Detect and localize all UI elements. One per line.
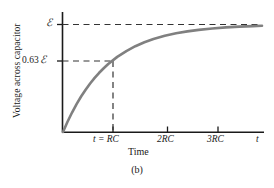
y-tick-label-emf: ℰ [46,18,52,29]
x-tick-label-2rc: 2RC [157,135,174,145]
y-tick-label-063-value: 0.63 [22,55,39,65]
y-tick-label-063-emf: 0.63ℰ [22,55,46,66]
charging-curve [63,26,262,132]
x-axis-title: Time [128,147,149,157]
panel-caption: (b) [0,165,274,175]
plot-area [0,0,274,188]
y-tick-label-063-emf-symbol: ℰ [39,54,47,65]
x-tick-label-rc: t = RC [93,135,119,145]
capacitor-charging-figure: Voltage across capacitor Time ℰ 0.63ℰ t … [0,0,274,188]
x-tick-label-t: t [256,135,259,145]
x-tick-label-3rc: 3RC [207,135,224,145]
y-axis-title: Voltage across capacitor [13,15,23,127]
